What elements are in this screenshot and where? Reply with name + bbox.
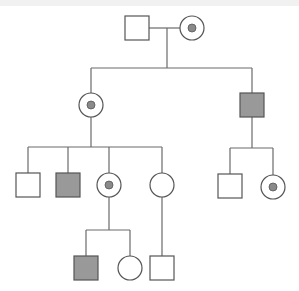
- individual-III-4-female-unaffected: [150, 173, 174, 197]
- individual-IV-1-male-affected: [74, 256, 98, 280]
- individual-II-2-male-affected: [240, 93, 264, 117]
- male-square-icon: [74, 256, 98, 280]
- individual-III-3-female-carrier: [97, 173, 121, 197]
- pedigree-chart: [0, 0, 299, 291]
- individual-IV-2-female-unaffected: [118, 256, 142, 280]
- individual-III-1-male-unaffected: [16, 173, 40, 197]
- male-square-icon: [218, 174, 242, 198]
- individual-III-2-male-affected: [56, 173, 80, 197]
- female-circle-icon: [150, 173, 174, 197]
- individual-I-2-female-carrier: [180, 16, 204, 40]
- individual-III-5-male-unaffected: [218, 174, 242, 198]
- male-square-icon: [150, 256, 174, 280]
- female-circle-icon: [118, 256, 142, 280]
- connector-lines: [28, 28, 273, 256]
- male-square-icon: [240, 93, 264, 117]
- male-square-icon: [125, 16, 149, 40]
- male-square-icon: [16, 173, 40, 197]
- carrier-dot-icon: [188, 24, 196, 32]
- individual-I-1-male-unaffected: [125, 16, 149, 40]
- male-square-icon: [56, 173, 80, 197]
- individual-II-1-female-carrier: [79, 93, 103, 117]
- carrier-dot-icon: [269, 183, 277, 191]
- carrier-dot-icon: [105, 181, 113, 189]
- individual-IV-3-male-unaffected: [150, 256, 174, 280]
- individual-III-6-female-carrier: [261, 175, 285, 199]
- carrier-dot-icon: [87, 101, 95, 109]
